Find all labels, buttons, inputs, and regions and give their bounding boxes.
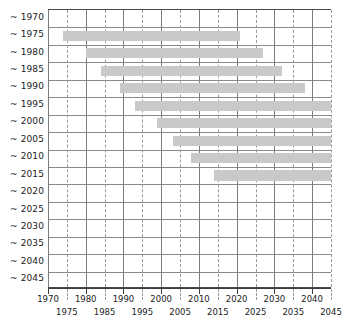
- x-axis-tick-minor: [67, 289, 68, 300]
- grid-line-horizontal: [48, 45, 331, 46]
- y-axis-tick-label: ~ 1970: [0, 13, 44, 22]
- grid-line-horizontal: [48, 237, 331, 238]
- x-axis-tick-label-minor: 2025: [245, 308, 267, 317]
- y-axis-tick-label: ~ 2020: [0, 187, 44, 196]
- grid-line-horizontal: [48, 202, 331, 203]
- grid-line-vertical-minor: [293, 10, 294, 287]
- y-axis-tick-label: ~ 2005: [0, 135, 44, 144]
- x-axis-tick-minor: [180, 289, 181, 300]
- y-axis-tick-label: ~ 1990: [0, 82, 44, 91]
- y-axis-tick-label: ~ 2000: [0, 117, 44, 126]
- y-axis-tick-label: ~ 2025: [0, 205, 44, 214]
- gantt-bar: [173, 136, 331, 146]
- gantt-bar: [157, 118, 331, 128]
- x-axis-tick-label-minor: 2035: [282, 308, 304, 317]
- x-axis-tick-minor: [218, 289, 219, 300]
- y-axis-tick-label: ~ 1975: [0, 30, 44, 39]
- y-axis-tick-label: ~ 2040: [0, 257, 44, 266]
- grid-line-horizontal: [48, 184, 331, 185]
- x-axis-tick-label-major: 2040: [301, 295, 323, 304]
- gantt-bar: [63, 31, 240, 41]
- x-axis-tick-minor: [105, 289, 106, 300]
- grid-line-horizontal: [48, 115, 331, 116]
- grid-line-horizontal: [48, 150, 331, 151]
- y-axis-tick-label: ~ 2035: [0, 239, 44, 248]
- grid-line-vertical-minor: [331, 10, 332, 287]
- y-axis-tick-label: ~ 2010: [0, 152, 44, 161]
- grid-line-horizontal: [48, 167, 331, 168]
- y-axis-tick-label: ~ 2015: [0, 170, 44, 179]
- y-axis-tick-label: ~ 1995: [0, 100, 44, 109]
- gantt-bar: [135, 101, 331, 111]
- grid-line-horizontal: [48, 62, 331, 63]
- x-axis-tick-minor: [293, 289, 294, 300]
- x-axis-tick-minor: [331, 289, 332, 300]
- grid-line-horizontal: [48, 254, 331, 255]
- grid-line-vertical-major: [274, 10, 275, 287]
- grid-line-horizontal: [48, 272, 331, 273]
- x-axis-tick-label-minor: 2015: [207, 308, 229, 317]
- gantt-bar: [86, 48, 263, 58]
- x-axis-tick-label-major: 1970: [37, 295, 59, 304]
- grid-line-horizontal: [48, 132, 331, 133]
- grid-line-vertical-major: [312, 10, 313, 287]
- x-axis-tick-label-major: 2000: [150, 295, 172, 304]
- grid-line-vertical-major: [48, 10, 49, 287]
- x-axis-tick-label-minor: 1995: [132, 308, 154, 317]
- grid-line-horizontal: [48, 27, 331, 28]
- x-axis-tick-label-minor: 2045: [320, 308, 342, 317]
- y-axis-tick-label: ~ 1980: [0, 48, 44, 57]
- y-axis-tick-label: ~ 1985: [0, 65, 44, 74]
- x-axis-tick-label-minor: 1985: [94, 308, 116, 317]
- gantt-bar: [120, 83, 305, 93]
- grid-line-horizontal: [48, 219, 331, 220]
- grid-line-vertical-minor: [67, 10, 68, 287]
- y-axis-tick-label: ~ 2030: [0, 222, 44, 231]
- x-axis-tick-label-major: 1980: [75, 295, 97, 304]
- x-axis-tick-label-major: 2020: [226, 295, 248, 304]
- x-axis-tick-minor: [142, 289, 143, 300]
- x-axis-tick-label-major: 2010: [188, 295, 210, 304]
- x-axis-tick-minor: [256, 289, 257, 300]
- grid-line-horizontal: [48, 80, 331, 81]
- plot-area: [48, 9, 331, 288]
- grid-line-horizontal: [48, 97, 331, 98]
- x-axis-tick-label-minor: 1975: [56, 308, 78, 317]
- x-axis-tick-label-major: 2030: [264, 295, 286, 304]
- gantt-bar: [191, 153, 331, 163]
- y-axis-tick-label: ~ 2045: [0, 274, 44, 283]
- gantt-bar: [101, 66, 282, 76]
- x-axis: [48, 288, 331, 289]
- x-axis-tick-label-major: 1990: [113, 295, 135, 304]
- y-axis-labels: ~ 1970~ 1975~ 1980~ 1985~ 1990~ 1995~ 20…: [0, 9, 48, 288]
- x-axis-tick-label-minor: 2005: [169, 308, 191, 317]
- gantt-bar: [214, 170, 331, 180]
